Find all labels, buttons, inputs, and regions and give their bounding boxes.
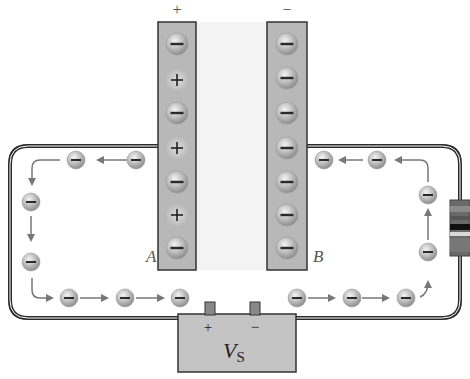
right-electron-flow [308,160,428,298]
plate-a-positive-ion [166,137,188,159]
plate-a-electron [166,102,188,124]
plate-a [158,22,196,270]
resistor [450,200,470,256]
plate-b-label: B [313,247,324,266]
plate-a-label: A [145,247,157,266]
plate-a-electron [166,33,188,55]
capacitor-circuit-diagram: + − A B [0,0,470,379]
battery-positive-terminal [205,302,215,315]
right-plate-polarity-label: − [282,1,291,18]
right-electrons [288,151,437,307]
plate-a-electron [166,237,188,259]
left-electron-flow [31,160,163,298]
plate-a-electron [166,171,188,193]
plate-a-positive-ion [166,204,188,226]
battery: + − VS [178,302,296,372]
left-plate-polarity-label: + [172,1,181,18]
battery-negative-label: − [251,319,259,335]
battery-negative-terminal [250,302,260,315]
plate-a-positive-ion [166,69,188,91]
plate-b [267,22,307,270]
battery-positive-label: + [204,319,212,335]
dielectric-gap [196,22,267,270]
